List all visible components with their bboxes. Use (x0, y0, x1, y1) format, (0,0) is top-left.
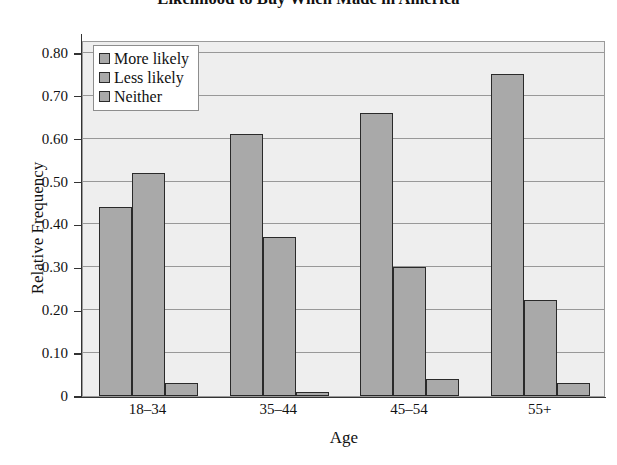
bar (296, 392, 329, 396)
bar (557, 383, 590, 396)
bar (263, 237, 296, 396)
y-axis-tick (74, 268, 82, 269)
y-axis-tick (74, 182, 82, 183)
bar (426, 379, 459, 396)
y-axis-tick (74, 311, 82, 312)
y-axis-tick-label: 0.80 (22, 46, 68, 61)
y-axis-tick (74, 225, 82, 226)
y-axis-tick (74, 353, 82, 354)
legend-label: More likely (114, 51, 189, 67)
legend-item: Neither (99, 87, 189, 106)
chart-title: Likelihood to Buy When Made in America (0, 0, 617, 9)
x-axis-line (82, 397, 606, 398)
bar (132, 173, 165, 396)
legend-swatch-icon (99, 91, 110, 102)
gridline (83, 138, 604, 139)
bar (360, 113, 393, 396)
y-axis-tick (74, 396, 82, 397)
y-axis-tick (74, 53, 82, 54)
x-axis-tick-label: 55+ (474, 400, 605, 418)
y-axis-tick (74, 139, 82, 140)
bar (230, 134, 263, 396)
x-axis-title: Age (82, 428, 606, 448)
legend-label: Less likely (114, 70, 184, 86)
legend: More likelyLess likelyNeither (93, 45, 199, 111)
x-axis-tick-label: 35–44 (213, 400, 344, 418)
chart-figure: Likelihood to Buy When Made in America 0… (0, 0, 617, 465)
bar (393, 267, 426, 396)
bar (99, 207, 132, 396)
bar (165, 383, 198, 396)
legend-label: Neither (114, 89, 162, 105)
y-axis-tick (74, 96, 82, 97)
bar (524, 300, 557, 397)
x-axis-tick-label: 45–54 (344, 400, 475, 418)
legend-swatch-icon (99, 53, 110, 64)
legend-item: Less likely (99, 68, 189, 87)
bar (491, 74, 524, 396)
legend-swatch-icon (99, 72, 110, 83)
y-axis-line (81, 34, 82, 398)
y-axis-title: Relative Frequency (28, 98, 48, 358)
legend-item: More likely (99, 49, 189, 68)
x-axis-tick-label: 18–34 (82, 400, 213, 418)
y-axis-tick-label: 0 (22, 389, 68, 404)
